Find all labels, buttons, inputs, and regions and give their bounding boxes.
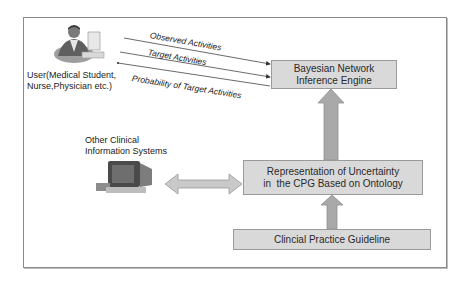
computer-terminal-icon (96, 159, 158, 195)
other-systems-label: Other Clinical Information Systems (85, 135, 167, 157)
double-arrow-other-systems-representation (165, 174, 242, 194)
clinical-practice-guideline-box: Clincial Practice Guideline (233, 229, 431, 250)
block-arrow-representation-to-bayesian (318, 89, 344, 160)
user-label: User(Medical Student, Nurse,Physician et… (27, 70, 116, 92)
bayesian-inference-engine-box: Bayesian Network Inference Engine (271, 60, 397, 89)
block-arrow-cpg-to-representation (321, 195, 343, 229)
representation-of-uncertainty-box: Representation of Uncertainty in the CPG… (243, 160, 423, 195)
person-at-computer-icon (52, 22, 108, 64)
